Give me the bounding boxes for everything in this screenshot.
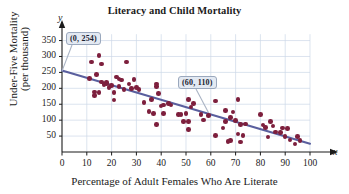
data-point bbox=[94, 72, 99, 77]
data-point bbox=[186, 97, 191, 102]
y-tick-label: 50 bbox=[28, 130, 56, 140]
scatter-chart-figure: Literacy and Child Mortality Under-Five … bbox=[0, 0, 349, 194]
data-point bbox=[201, 118, 206, 123]
data-point bbox=[213, 133, 218, 138]
data-point bbox=[161, 103, 166, 108]
data-point bbox=[228, 115, 233, 120]
data-point bbox=[238, 122, 243, 127]
data-point bbox=[285, 126, 290, 131]
data-point bbox=[184, 111, 189, 116]
data-point bbox=[233, 118, 238, 123]
data-point bbox=[298, 138, 303, 143]
data-point bbox=[154, 122, 159, 127]
data-point bbox=[241, 133, 246, 138]
y-tick-label: 150 bbox=[28, 98, 56, 108]
x-tick-label: 20 bbox=[100, 158, 124, 168]
data-point bbox=[238, 140, 243, 145]
x-tick-label: 80 bbox=[248, 158, 272, 168]
data-point bbox=[147, 109, 152, 114]
data-point bbox=[89, 60, 94, 65]
data-point bbox=[263, 125, 268, 130]
y-tick-label: 350 bbox=[28, 35, 56, 45]
x-tick-label: 100 bbox=[298, 158, 322, 168]
data-point bbox=[154, 82, 159, 87]
data-point bbox=[199, 112, 204, 117]
data-point bbox=[191, 101, 196, 106]
x-tick-label: 90 bbox=[273, 158, 297, 168]
data-point bbox=[122, 87, 127, 92]
x-tick-label: 60 bbox=[199, 158, 223, 168]
data-point bbox=[109, 83, 114, 88]
data-point bbox=[228, 138, 233, 143]
y-tick-label: 100 bbox=[28, 114, 56, 124]
x-tick-label: 30 bbox=[124, 158, 148, 168]
data-point bbox=[258, 112, 263, 117]
y-axis-letter: y bbox=[58, 12, 62, 23]
data-point bbox=[132, 77, 137, 82]
x-tick-label: 10 bbox=[75, 158, 99, 168]
data-point bbox=[186, 119, 191, 124]
x-tick-label: 40 bbox=[149, 158, 173, 168]
data-point bbox=[273, 130, 278, 135]
x-tick-label: 70 bbox=[224, 158, 248, 168]
data-point bbox=[149, 97, 154, 102]
data-point bbox=[129, 86, 134, 91]
x-axis-letter: x bbox=[333, 146, 337, 157]
data-point bbox=[156, 91, 161, 96]
y-tick-label: 200 bbox=[28, 82, 56, 92]
data-point bbox=[92, 90, 97, 95]
annotation-callout: (0, 254) bbox=[66, 32, 101, 45]
data-point bbox=[186, 127, 191, 132]
y-tick-label: 250 bbox=[28, 66, 56, 76]
data-point bbox=[278, 130, 283, 135]
data-point bbox=[223, 119, 228, 124]
x-tick-label: 50 bbox=[174, 158, 198, 168]
data-point bbox=[142, 100, 147, 105]
data-point bbox=[119, 78, 124, 83]
annotation-callout: (60, 110) bbox=[178, 76, 217, 89]
data-point bbox=[223, 108, 228, 113]
data-point bbox=[181, 119, 186, 124]
x-tick-label: 0 bbox=[50, 158, 74, 168]
data-point bbox=[137, 87, 142, 92]
data-point bbox=[87, 76, 92, 81]
data-point bbox=[236, 97, 241, 102]
y-tick-label: 300 bbox=[28, 50, 56, 60]
data-point bbox=[243, 122, 248, 127]
data-point bbox=[206, 113, 211, 118]
data-point bbox=[161, 111, 166, 116]
